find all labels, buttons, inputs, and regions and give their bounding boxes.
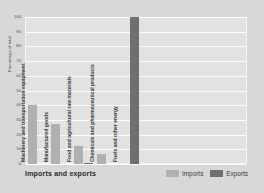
- y-tick-label: 90: [16, 30, 21, 34]
- bar-imports: [74, 146, 83, 164]
- bar-imports: [51, 124, 60, 164]
- y-tick-label: 80: [16, 44, 21, 48]
- bar-exports: [130, 17, 139, 164]
- gridline: [26, 164, 246, 165]
- bar-imports: [28, 105, 37, 164]
- bars-layer: Machinery and transportation equipmentMa…: [25, 17, 247, 164]
- chart-card: Percentage of total 01020304050607080901…: [0, 0, 264, 193]
- chart-title: Imports and exports: [25, 170, 96, 178]
- category-label: Fuels and other energy: [113, 106, 118, 162]
- bar-imports: [97, 154, 106, 164]
- category-label: Machinery and transportation equipment: [21, 63, 26, 162]
- chart-legend: ImportsExports: [166, 170, 248, 177]
- legend-label: Imports: [182, 170, 203, 177]
- bar-exports: [84, 163, 93, 164]
- y-tick-label: 100: [14, 15, 21, 19]
- y-tick-label: 0: [19, 162, 21, 166]
- category-label: Manufactured goods: [44, 112, 49, 162]
- legend-item[interactable]: Imports: [166, 170, 203, 177]
- category-label: Chemicals and pharmaceutical products: [90, 64, 95, 162]
- category-label: Food and agricultural raw materials: [67, 76, 72, 162]
- legend-swatch: [166, 170, 179, 177]
- legend-swatch: [210, 170, 223, 177]
- legend-label: Exports: [226, 170, 248, 177]
- legend-item[interactable]: Exports: [210, 170, 248, 177]
